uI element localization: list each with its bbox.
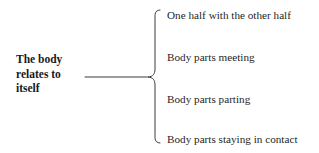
- branch-item: One half with the other half: [167, 9, 291, 22]
- branch-item: Body parts parting: [167, 93, 250, 106]
- root-label-line-1: The body: [16, 52, 84, 67]
- root-label-line-3: itself: [16, 81, 84, 96]
- root-label: The body relates to itself: [16, 52, 84, 96]
- curly-brace-path: [148, 10, 160, 143]
- branch-list: One half with the other half Body parts …: [167, 0, 319, 153]
- branch-item: Body parts meeting: [167, 51, 255, 64]
- branch-item: Body parts staying in contact: [167, 133, 298, 146]
- brace-diagram: The body relates to itself One half with…: [0, 0, 319, 153]
- root-label-line-2: relates to: [16, 67, 84, 82]
